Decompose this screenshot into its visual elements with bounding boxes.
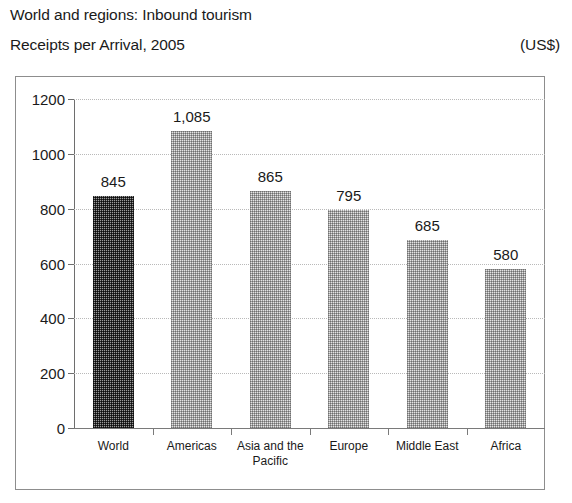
y-axis-tick [68,99,74,100]
y-axis-tick [68,428,74,429]
gridline [74,318,545,319]
y-axis-tick-label: 200 [40,365,65,382]
x-axis-tick [388,428,389,435]
y-axis-tick [68,318,74,319]
plot-area: 020040060080010001200 8451,0858657956855… [74,99,545,428]
chart-subtitle: Receipts per Arrival, 2005 [10,36,185,54]
y-axis-tick-label: 400 [40,310,65,327]
chart-frame: 020040060080010001200 8451,0858657956855… [15,76,545,490]
gridline [74,373,545,374]
bar[interactable]: 1,085 [171,131,212,428]
bar-value-label: 845 [101,173,126,190]
x-axis-category-label: Europe [329,439,368,454]
y-axis-tick [68,373,74,374]
bar[interactable]: 685 [407,240,448,428]
bar-value-label: 1,085 [173,108,211,125]
bar[interactable]: 580 [485,269,526,428]
y-axis-tick-label: 800 [40,200,65,217]
units-label: (US$) [520,36,560,54]
bar-value-label: 685 [415,217,440,234]
bar[interactable]: 845 [93,196,134,428]
gridline [74,264,545,265]
page-title: World and regions: Inbound tourism [10,6,252,24]
x-axis-category-label: Africa [490,439,521,454]
y-axis-tick-label: 0 [57,420,65,437]
x-axis-category-label: Americas [167,439,217,454]
y-axis-tick [68,264,74,265]
bar-value-label: 865 [258,168,283,185]
bar[interactable]: 865 [250,191,291,428]
chart-header: World and regions: Inbound tourism Recei… [0,0,572,70]
bar-value-label: 580 [493,246,518,263]
x-axis-tick [153,428,154,435]
x-axis-tick [310,428,311,435]
gridline [74,99,545,100]
y-axis-tick-label: 600 [40,255,65,272]
gridline [74,209,545,210]
y-axis-tick [68,154,74,155]
x-axis-tick [231,428,232,435]
x-axis-category-label: Asia and the Pacific [237,439,304,469]
bar-value-label: 795 [336,187,361,204]
x-axis-category-label: World [98,439,129,454]
x-axis-category-label: Middle East [396,439,459,454]
y-axis-tick-label: 1200 [32,91,65,108]
bar[interactable]: 795 [328,210,369,428]
x-axis-tick [467,428,468,435]
y-axis-tick [68,209,74,210]
gridline [74,154,545,155]
y-axis-tick-label: 1000 [32,145,65,162]
